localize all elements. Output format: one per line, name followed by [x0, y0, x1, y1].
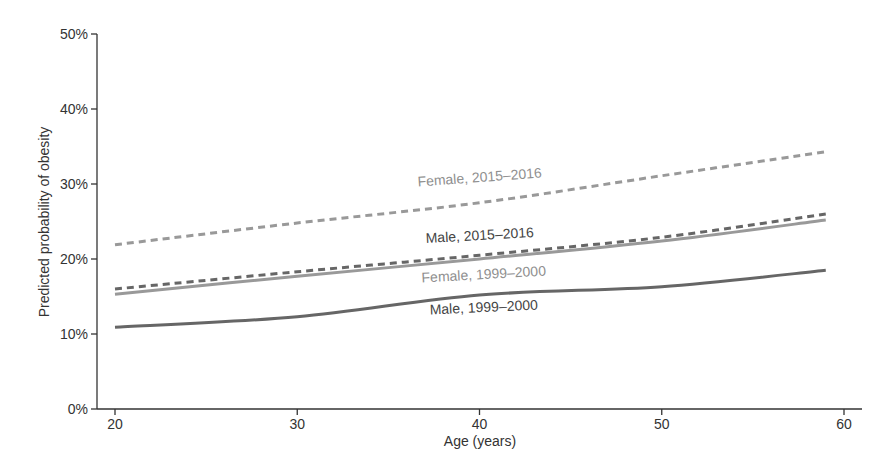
x-ticks: 2030405060	[107, 409, 852, 432]
y-tick-label: 50%	[60, 26, 88, 42]
series-label-1: Male, 2015–2016	[425, 224, 534, 246]
obesity-line-chart: 0%10%20%30%40%50% 2030405060 Age (years)…	[0, 0, 892, 472]
series-label-0: Female, 2015–2016	[417, 164, 543, 189]
x-tick-label: 40	[472, 416, 488, 432]
y-tick-label: 0%	[68, 401, 88, 417]
x-tick-label: 60	[836, 416, 852, 432]
x-axis-title: Age (years)	[444, 433, 516, 449]
y-ticks: 0%10%20%30%40%50%	[60, 26, 97, 417]
y-tick-label: 30%	[60, 176, 88, 192]
y-tick-label: 20%	[60, 251, 88, 267]
x-tick-label: 20	[107, 416, 123, 432]
y-axis-title: Predicted probability of obesity	[36, 127, 52, 318]
y-tick-label: 40%	[60, 101, 88, 117]
x-tick-label: 50	[654, 416, 670, 432]
x-tick-label: 30	[289, 416, 305, 432]
series-label-2: Female, 1999–2000	[421, 263, 546, 286]
y-tick-label: 10%	[60, 326, 88, 342]
